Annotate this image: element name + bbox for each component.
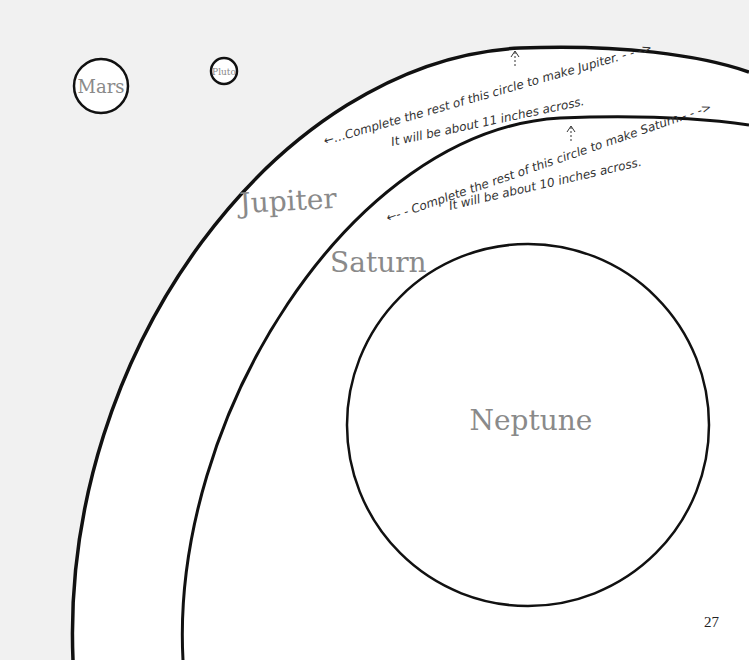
saturn-label: Saturn: [330, 246, 427, 279]
planet-cutout-page: Mars Pluto Jupiter Saturn Neptune ←…Comp…: [0, 0, 749, 660]
pluto-label: Pluto: [212, 67, 236, 77]
page-number: 27: [704, 614, 719, 631]
mars-label: Mars: [77, 76, 124, 97]
neptune-label: Neptune: [470, 404, 593, 437]
jupiter-label: Jupiter: [236, 182, 339, 220]
